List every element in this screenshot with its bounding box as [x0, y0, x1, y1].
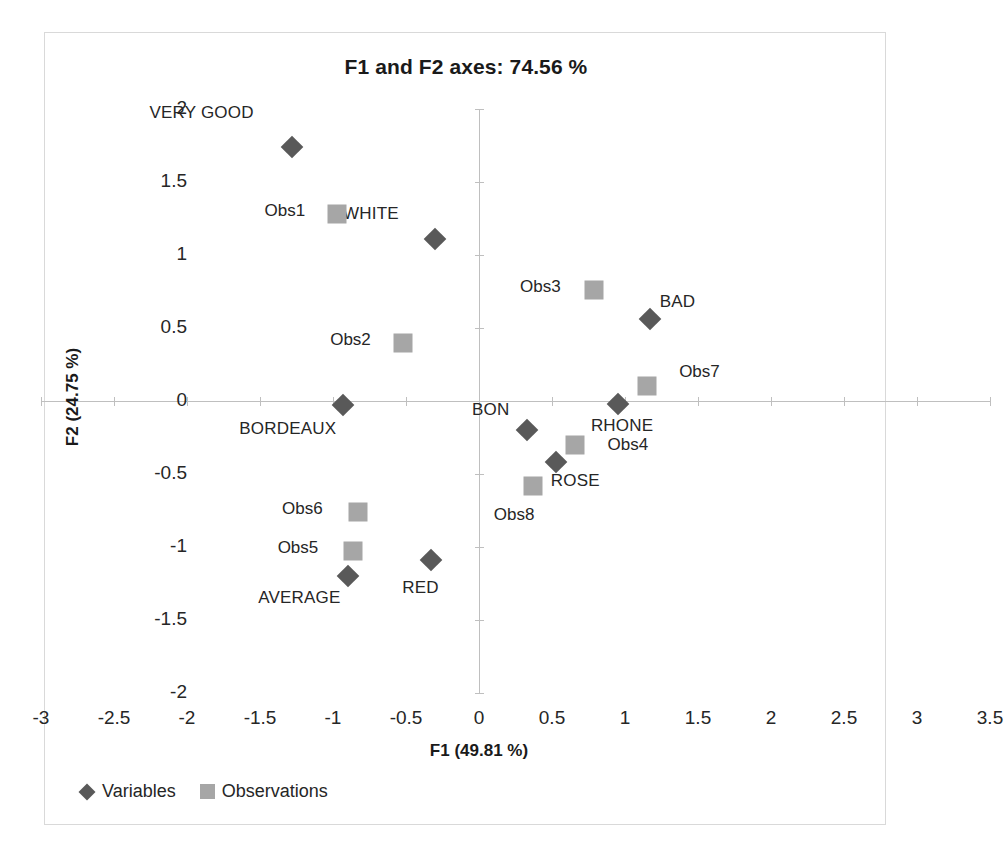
- x-axis-tick: [771, 397, 772, 406]
- data-point-label: Obs4: [568, 436, 688, 453]
- data-point-diamond[interactable]: [516, 419, 539, 442]
- x-tick-label: 2.5: [804, 707, 884, 729]
- y-axis-tick: [475, 182, 484, 183]
- y-tick-label: 0: [105, 389, 187, 411]
- y-tick-label: -0.5: [105, 462, 187, 484]
- data-point-diamond[interactable]: [419, 549, 442, 572]
- y-tick-label: 1.5: [105, 170, 187, 192]
- y-axis-tick: [475, 620, 484, 621]
- legend-entry-variables[interactable]: Variables: [81, 781, 176, 802]
- x-tick-label: 3: [877, 707, 957, 729]
- y-tick-label: -1: [105, 535, 187, 557]
- x-tick-label: -0.5: [366, 707, 446, 729]
- data-point-label: RED: [361, 579, 481, 596]
- data-point-label: Obs2: [291, 331, 411, 348]
- x-tick-label: 0.5: [512, 707, 592, 729]
- data-point-label: AVERAGE: [239, 589, 359, 606]
- y-tick-label: 0.5: [105, 316, 187, 338]
- data-point-label: RHONE: [562, 417, 682, 434]
- y-tick-label: 1: [105, 243, 187, 265]
- x-tick-label: -3: [1, 707, 81, 729]
- data-point-label: BON: [431, 401, 551, 418]
- data-point-label: Obs8: [454, 506, 574, 523]
- legend-label: Variables: [102, 781, 176, 802]
- x-axis-tick: [260, 397, 261, 406]
- data-point-label: Obs3: [480, 278, 600, 295]
- x-tick-label: -1: [293, 707, 373, 729]
- data-point-label: Obs7: [639, 363, 759, 380]
- data-point-label: BAD: [618, 293, 738, 310]
- y-axis-title: F2 (24.75 %): [63, 307, 83, 487]
- data-point-diamond[interactable]: [638, 308, 661, 331]
- x-tick-label: -2: [147, 707, 227, 729]
- x-axis-tick: [844, 397, 845, 406]
- y-tick-label: -2: [105, 681, 187, 703]
- x-axis-tick: [698, 397, 699, 406]
- x-tick-label: 2: [731, 707, 811, 729]
- data-point-diamond[interactable]: [336, 565, 359, 588]
- data-point-diamond[interactable]: [281, 136, 304, 159]
- x-axis-tick: [187, 397, 188, 406]
- y-axis-tick: [475, 328, 484, 329]
- data-point-diamond[interactable]: [606, 393, 629, 416]
- legend-label: Observations: [222, 781, 328, 802]
- x-axis-title: F1 (49.81 %): [359, 741, 599, 761]
- data-point-diamond[interactable]: [424, 228, 447, 251]
- data-point-label: BORDEAUX: [228, 420, 348, 437]
- y-axis-tick: [475, 109, 484, 110]
- data-point-label: VERY GOOD: [142, 104, 262, 121]
- data-point-square[interactable]: [524, 476, 543, 495]
- x-axis-tick: [917, 397, 918, 406]
- x-tick-label: 3.5: [950, 707, 1008, 729]
- y-axis-tick: [475, 547, 484, 548]
- data-point-label: Obs5: [238, 539, 358, 556]
- diamond-marker-icon: [79, 783, 96, 800]
- x-tick-label: 0: [439, 707, 519, 729]
- data-point-diamond[interactable]: [332, 394, 355, 417]
- data-point-diamond[interactable]: [545, 451, 568, 474]
- y-axis-tick: [475, 255, 484, 256]
- chart-frame: F1 and F2 axes: 74.56 % 21.510.50-0.5-1-…: [44, 32, 886, 825]
- x-axis-tick: [552, 397, 553, 406]
- legend-entry-observations[interactable]: Observations: [200, 781, 328, 802]
- plot-area: 21.510.50-0.5-1-1.5-2-3-2.5-2-1.5-1-0.50…: [45, 33, 887, 826]
- x-tick-label: -2.5: [74, 707, 154, 729]
- data-point-label: Obs1: [225, 202, 345, 219]
- x-tick-label: -1.5: [220, 707, 300, 729]
- x-axis-tick: [406, 397, 407, 406]
- y-axis-tick: [475, 693, 484, 694]
- chart-legend: VariablesObservations: [81, 781, 328, 802]
- y-tick-label: -1.5: [105, 608, 187, 630]
- square-marker-icon: [200, 784, 215, 799]
- x-axis-tick: [990, 397, 991, 406]
- x-tick-label: 1.5: [658, 707, 738, 729]
- data-point-label: Obs6: [242, 500, 362, 517]
- x-axis-tick: [41, 397, 42, 406]
- x-tick-label: 1: [585, 707, 665, 729]
- y-axis-tick: [475, 474, 484, 475]
